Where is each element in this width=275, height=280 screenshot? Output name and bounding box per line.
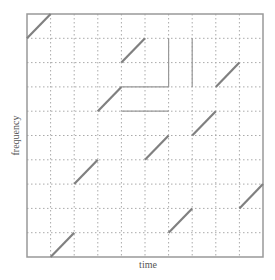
grid-lines <box>27 14 263 257</box>
highlight-lines <box>121 38 192 111</box>
sweep-segment <box>98 87 122 111</box>
sweep-segment <box>169 208 193 232</box>
sweep-segment <box>121 38 145 62</box>
sweep-segment <box>74 160 98 184</box>
sweep-segment <box>51 233 75 257</box>
sweep-segment <box>239 184 263 208</box>
sweep-segment <box>27 14 51 38</box>
sweep-segment <box>192 111 216 135</box>
sweep-segment <box>216 63 240 87</box>
x-axis-label: time <box>133 259 163 270</box>
chart-plot <box>0 0 275 280</box>
sweep-segment <box>145 136 169 160</box>
y-axis-label: frequency <box>10 111 21 161</box>
